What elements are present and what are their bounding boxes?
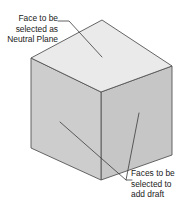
- draft-cube-diagram: Face to be selected as Neutral Plane Fac…: [0, 0, 187, 213]
- callout-add-draft-line-3: add draft: [131, 189, 187, 200]
- callout-neutral-plane: Face to be selected as Neutral Plane: [2, 13, 58, 45]
- callout-add-draft: Faces to be selected to add draft: [131, 168, 187, 200]
- callout-neutral-plane-line-3: Neutral Plane: [2, 34, 58, 45]
- callout-add-draft-line-2: selected to: [131, 179, 187, 190]
- callout-neutral-plane-line-1: Face to be: [2, 13, 58, 24]
- callout-neutral-plane-line-2: selected as: [2, 24, 58, 35]
- callout-add-draft-line-1: Faces to be: [131, 168, 187, 179]
